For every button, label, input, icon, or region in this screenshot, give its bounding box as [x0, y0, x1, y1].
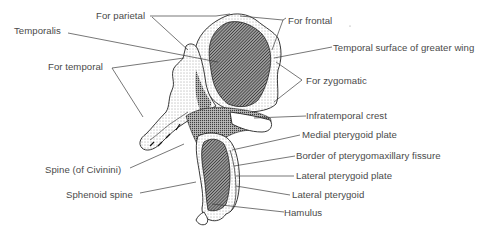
anatomical-diagram: For parietal For frontal Temporalis Temp… — [0, 0, 482, 229]
label-spine-civinini: Spine (of Civinini) — [45, 164, 121, 175]
pterygoid-process — [196, 133, 240, 225]
sphenoid-illustration: For parietal For frontal Temporalis Temp… — [0, 0, 482, 229]
label-medial-pterygoid-plate: Medial pterygoid plate — [302, 129, 397, 140]
label-for-temporal: For temporal — [48, 61, 103, 72]
temporal-surface-hatched — [209, 22, 271, 107]
label-temporal-surface: Temporal surface of greater wing — [333, 42, 474, 53]
label-lateral-pterygoid-plate: Lateral pterygoid plate — [296, 170, 392, 181]
label-temporalis: Temporalis — [14, 25, 61, 36]
label-for-parietal: For parietal — [96, 10, 145, 21]
label-for-frontal: For frontal — [288, 15, 332, 26]
stray-mark — [350, 26, 351, 27]
label-for-zygomatic: For zygomatic — [306, 75, 367, 86]
label-border-pterygomaxillary-fissure: Border of pterygomaxillary fissure — [296, 150, 441, 161]
label-sphenoid-spine: Sphenoid spine — [66, 189, 133, 200]
label-lateral-pterygoid: Lateral pterygoid — [292, 189, 364, 200]
label-hamulus: Hamulus — [284, 207, 322, 218]
label-infratemporal-crest: Infratemporal crest — [306, 110, 387, 121]
